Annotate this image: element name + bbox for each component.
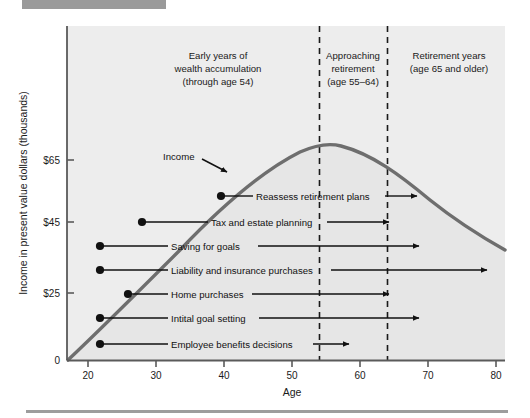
phase-label-approaching-retirement: Approaching retirement (age 55–64) xyxy=(326,50,380,87)
task-label-liability-and-insurance-purchases: Liability and insurance purchases xyxy=(171,265,313,276)
task-label-saving-for-goals: Saving for goals xyxy=(171,241,240,252)
phase-label-early-years-line-3: (through age 54) xyxy=(183,76,254,87)
phase-label-approaching-retirement-line-2: retirement xyxy=(331,63,375,74)
x-tick-label-40: 40 xyxy=(218,370,230,381)
x-axis-title: Age xyxy=(283,386,302,398)
x-tick-label-20: 20 xyxy=(82,370,94,381)
x-tick-label-60: 60 xyxy=(354,370,366,381)
x-tick-label-30: 30 xyxy=(150,370,162,381)
y-tick-label-25: $25 xyxy=(43,288,60,299)
y-tick-label-65: $65 xyxy=(43,155,60,166)
task-label-home-purchases: Home purchases xyxy=(171,289,244,300)
task-label-reassess-retirement-plans: Reassess retirement plans xyxy=(256,191,370,202)
phase-label-approaching-retirement-line-1: Approaching xyxy=(326,50,380,61)
income-life-cycle-chart: $65 $45 $25 0 20 30 40 50 60 70 80 Age I… xyxy=(0,0,530,418)
x-tick-label-50: 50 xyxy=(286,370,298,381)
task-label-employee-benefits-decisions: Employee benefits decisions xyxy=(171,339,293,350)
phase-label-early-years-line-1: Early years of xyxy=(189,50,248,61)
x-tick-label-80: 80 xyxy=(490,370,502,381)
y-tick-label-0: 0 xyxy=(54,355,60,366)
task-label-intital-goal-setting: Intital goal setting xyxy=(171,313,246,324)
income-curve-annotation: Income xyxy=(163,151,194,162)
phase-label-early-years-line-2: wealth accumulation xyxy=(174,63,262,74)
phase-label-approaching-retirement-line-3: (age 55–64) xyxy=(327,76,379,87)
phase-label-retirement-years-line-1: Retirement years xyxy=(412,50,485,61)
x-tick-label-70: 70 xyxy=(422,370,434,381)
y-axis-title: Income in present value dollars (thousan… xyxy=(17,91,29,295)
phase-label-retirement-years-line-2: (age 65 and older) xyxy=(410,63,488,74)
y-tick-label-45: $45 xyxy=(43,217,60,228)
task-label-tax-and-estate-planning: Tax and estate planning xyxy=(211,217,312,228)
bottom-decorative-rule xyxy=(26,410,508,413)
